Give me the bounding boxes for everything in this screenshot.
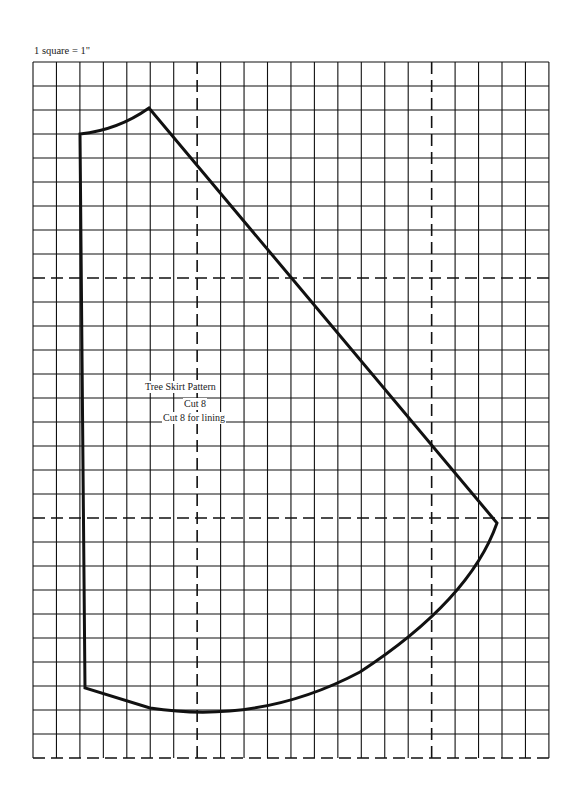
cut-instruction: Cut 8	[183, 398, 207, 410]
grid-lines	[33, 62, 549, 758]
pattern-grid	[0, 0, 579, 799]
lining-instruction: Cut 8 for lining	[162, 412, 226, 424]
tree-skirt-outline	[80, 108, 497, 712]
pattern-title: Tree Skirt Pattern	[144, 381, 217, 393]
